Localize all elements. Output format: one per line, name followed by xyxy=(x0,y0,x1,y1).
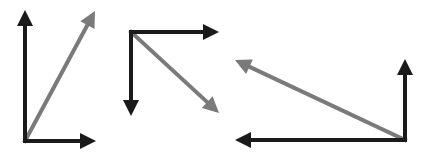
resultant-up-left-arrow xyxy=(235,60,405,140)
resultant-up-left-shaft xyxy=(248,66,405,140)
resultant-down-right-shaft xyxy=(131,32,209,104)
resultant-down-right-arrow xyxy=(131,32,219,113)
arrowhead-icon xyxy=(203,24,219,40)
arrowhead-icon xyxy=(17,10,33,26)
arrowhead-icon xyxy=(235,132,251,148)
arrowhead-icon xyxy=(397,59,413,75)
diagram-up-right xyxy=(17,10,96,149)
diagram-down-right xyxy=(123,24,219,116)
resultant-up-right-shaft xyxy=(25,23,88,141)
arrowhead-icon xyxy=(123,100,139,116)
diagram-up-left xyxy=(235,59,413,148)
horizontal-component-right-arrow xyxy=(25,133,96,149)
horizontal-component-left-arrow xyxy=(235,132,405,148)
horizontal-component-right-arrow xyxy=(131,24,219,40)
resultant-up-right-arrow xyxy=(25,11,95,141)
vector-diagrams-canvas xyxy=(0,0,430,166)
vertical-component-down-arrow xyxy=(123,32,139,116)
vertical-component-up-arrow xyxy=(17,10,33,141)
vertical-component-up-arrow xyxy=(397,59,413,140)
arrowhead-icon xyxy=(80,133,96,149)
